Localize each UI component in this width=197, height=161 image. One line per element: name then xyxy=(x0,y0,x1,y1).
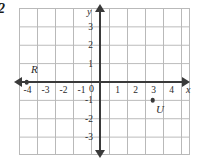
x-tick-label-neg3: -3 xyxy=(42,86,50,96)
plotted-point-R-label: R xyxy=(31,64,38,75)
y-tick-label-neg2: -2 xyxy=(78,115,93,125)
x-tick-label-4: 4 xyxy=(169,86,174,96)
plotted-point-R xyxy=(24,80,29,85)
problem-number: 2 xyxy=(0,2,5,16)
coordinate-plane-graph: -4 -3 -2 -1 1 2 3 4 0 3 2 1 -1 -2 -3 x y… xyxy=(19,8,190,155)
x-tick-label-neg2: -2 xyxy=(60,86,68,96)
x-tick-label-2: 2 xyxy=(133,86,138,96)
y-tick-label-neg1: -1 xyxy=(78,97,93,107)
y-axis-up-arrow-icon xyxy=(95,4,105,12)
x-tick-label-neg4: -4 xyxy=(24,86,32,96)
x-axis-left-arrow-icon xyxy=(14,77,22,87)
y-axis-down-arrow-icon xyxy=(95,150,105,158)
y-tick-label-1: 1 xyxy=(81,60,93,70)
plotted-point-U-label: U xyxy=(156,104,164,115)
origin-label: 0 xyxy=(89,84,94,94)
y-tick-label-3: 3 xyxy=(81,23,93,33)
worksheet-page: 2 -4 -3 -2 -1 1 2 3 4 0 3 2 1 -1 -2 -3 x… xyxy=(0,0,197,161)
y-axis-line xyxy=(99,11,101,152)
x-tick-label-1: 1 xyxy=(115,86,120,96)
x-tick-label-neg1: -1 xyxy=(78,86,86,96)
y-tick-label-neg3: -3 xyxy=(78,133,93,143)
x-axis-line xyxy=(21,81,185,83)
plotted-point-U xyxy=(150,98,155,103)
y-axis-label: y xyxy=(87,7,91,17)
x-tick-label-3: 3 xyxy=(151,86,156,96)
y-tick-label-2: 2 xyxy=(81,42,93,52)
x-axis-label: x xyxy=(186,85,190,95)
